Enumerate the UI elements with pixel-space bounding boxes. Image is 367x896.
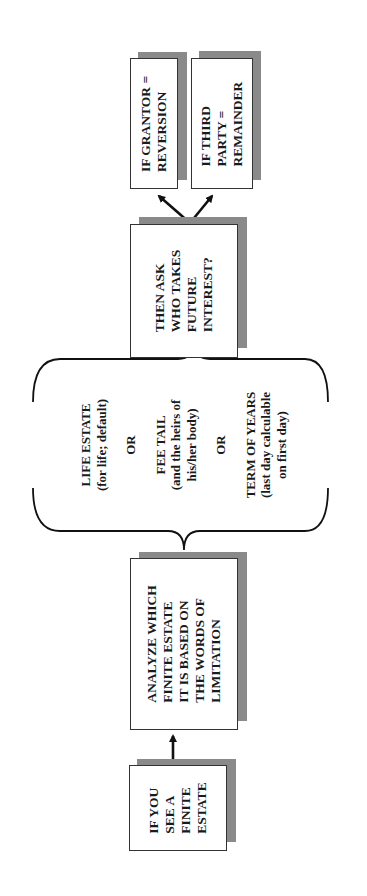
third-party-box-text: IF THIRD PARTY = REMAINDER bbox=[198, 81, 246, 166]
grantor-box-text: IF GRANTOR = REVERSION bbox=[138, 75, 170, 171]
estate-options: LIFE ESTATE (for life; default) OR FEE T… bbox=[40, 365, 325, 525]
ask-box-text: THEN ASK WHO TAKES FUTURE INTEREST? bbox=[152, 250, 216, 332]
start-box: IF YOU SEE A FINITE ESTATE bbox=[129, 765, 227, 851]
option-term-of-years: TERM OF YEARS (last day calculable on fi… bbox=[242, 392, 289, 499]
grantor-box: IF GRANTOR = REVERSION bbox=[130, 58, 178, 189]
option-or-2: OR bbox=[212, 392, 228, 499]
start-box-text: IF YOU SEE A FINITE ESTATE bbox=[146, 782, 210, 833]
option-or-1: OR bbox=[122, 392, 138, 499]
analyze-box: ANALYZE WHICH FINITE ESTATE IT IS BASED … bbox=[130, 558, 238, 730]
ask-box: THEN ASK WHO TAKES FUTURE INTEREST? bbox=[130, 224, 238, 358]
third-party-box: IF THIRD PARTY = REMAINDER bbox=[191, 58, 253, 189]
option-life-estate: LIFE ESTATE (for life; default) bbox=[77, 392, 108, 499]
option-fee-tail: FEE TAIL (and the heirs of his/her body) bbox=[152, 392, 199, 499]
analyze-box-text: ANALYZE WHICH FINITE ESTATE IT IS BASED … bbox=[144, 585, 224, 702]
